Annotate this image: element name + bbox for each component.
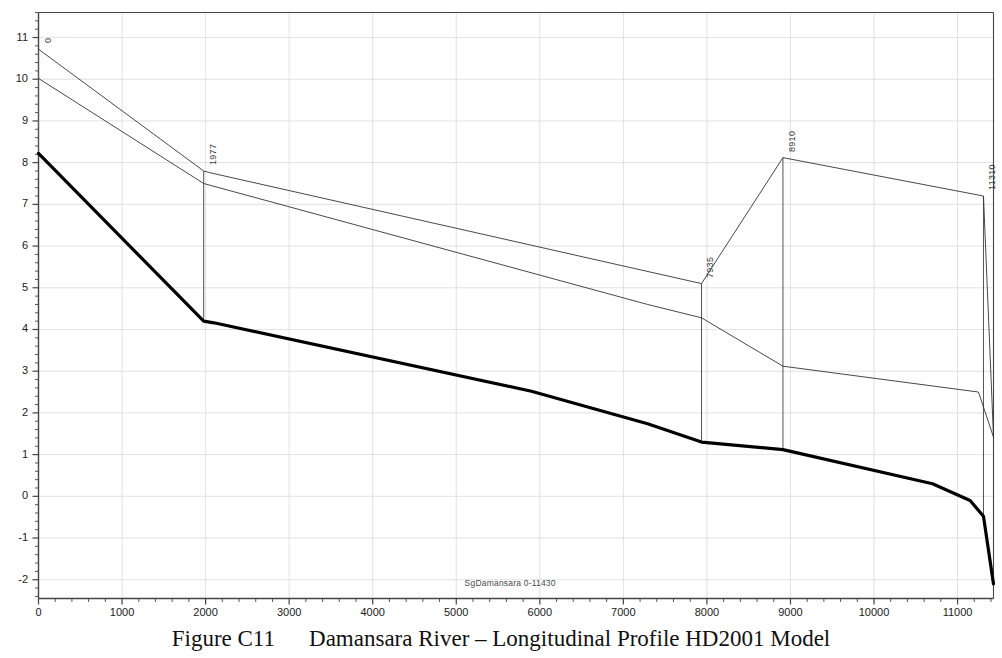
- x-axis-tick-label: 4000: [343, 607, 403, 618]
- figure-number: Figure C11: [172, 626, 275, 652]
- y-axis-tick-label: 6: [2, 240, 28, 251]
- y-axis-tick-label: 3: [2, 365, 28, 376]
- y-axis-tick-label: 8: [2, 157, 28, 168]
- figure-title: Damansara River – Longitudinal Profile H…: [309, 626, 830, 652]
- x-axis-tick-label: 2000: [176, 607, 236, 618]
- y-axis-tick-label: -1: [2, 532, 28, 543]
- y-axis-tick-label: 0: [2, 490, 28, 501]
- x-axis-tick-label: 8000: [677, 607, 737, 618]
- x-axis-tick-label: 6000: [510, 607, 570, 618]
- figure-root: -2-101234567891011 010002000300040005000…: [0, 0, 1002, 658]
- y-axis-tick-label: 7: [2, 198, 28, 209]
- x-axis-tick-label: 9000: [760, 607, 820, 618]
- x-axis-tick-label: 3000: [259, 607, 319, 618]
- x-axis-tick-label: 7000: [593, 607, 653, 618]
- y-axis-tick-label: 2: [2, 407, 28, 418]
- figure-caption: Figure C11 Damansara River – Longitudina…: [0, 620, 1002, 658]
- series-name-label: SgDamansara 0-11430: [465, 578, 556, 588]
- cross-section-chainage-label: 1977: [208, 144, 218, 165]
- y-axis-tick-label: 5: [2, 282, 28, 293]
- y-axis-tick-label: 10: [2, 73, 28, 84]
- x-axis-tick-label: 10000: [844, 607, 904, 618]
- y-axis-tick-label: 9: [2, 115, 28, 126]
- y-axis-tick-label: 4: [2, 323, 28, 334]
- y-axis-tick-label: 11: [2, 32, 28, 43]
- x-axis-tick-label: 11000: [928, 607, 988, 618]
- plot-svg: [0, 0, 1002, 620]
- y-axis-tick-label: 1: [2, 449, 28, 460]
- cross-section-chainage-label: 8910: [787, 130, 797, 151]
- x-axis-tick-label: 0: [9, 607, 69, 618]
- plot-background: [39, 13, 994, 599]
- cross-section-chainage-label: 11310: [987, 164, 997, 190]
- y-axis-tick-label: -2: [2, 574, 28, 585]
- longitudinal-profile-chart: -2-101234567891011 010002000300040005000…: [0, 0, 1002, 620]
- cross-section-chainage-label: 7935: [705, 256, 715, 277]
- cross-section-chainage-label: 0: [43, 38, 53, 43]
- x-axis-tick-label: 5000: [426, 607, 486, 618]
- x-axis-tick-label: 1000: [92, 607, 152, 618]
